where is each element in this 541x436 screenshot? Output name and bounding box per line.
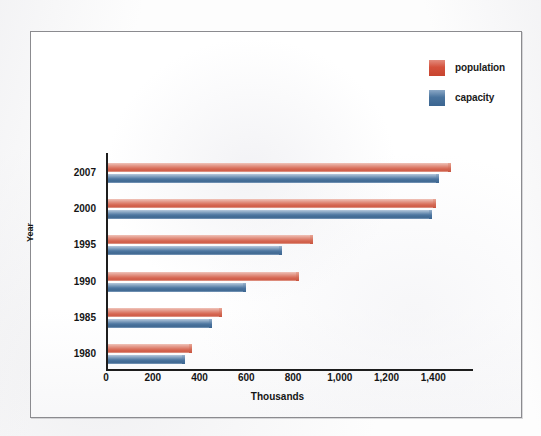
y-axis-tick-labels: 200720001995199019851980 (31, 153, 106, 370)
bar-capacity-1980[interactable] (108, 355, 182, 364)
bar-capacity-1995[interactable] (108, 246, 279, 255)
bar-population-2000[interactable] (108, 199, 433, 208)
bar-population-1985[interactable] (108, 308, 219, 317)
bar-population-2007[interactable] (108, 163, 448, 172)
bar-capacity-2000[interactable] (108, 210, 429, 219)
y-axis-line (106, 153, 108, 370)
x-axis-tick-200: 200 (144, 373, 161, 383)
legend-swatch-capacity-icon (429, 90, 445, 106)
bar-group-2000 (108, 199, 473, 219)
bar-group-1990 (108, 272, 473, 292)
bar-group-2007 (108, 163, 473, 183)
y-axis-tick-2007: 2007 (74, 168, 96, 178)
bar-population-1990[interactable] (108, 272, 296, 281)
y-axis-tick-1980: 1980 (74, 349, 96, 359)
x-axis-tick-0: 0 (103, 373, 109, 383)
y-axis-tick-2000: 2000 (74, 204, 96, 214)
x-axis-tick-600: 600 (238, 373, 255, 383)
bar-group-1985 (108, 308, 473, 328)
x-axis-tick-400: 400 (191, 373, 208, 383)
bar-population-1995[interactable] (108, 235, 310, 244)
y-axis-tick-1985: 1985 (74, 313, 96, 323)
y-axis-title: Year (25, 223, 35, 242)
legend-swatch-population-icon (429, 60, 445, 76)
legend-label-population: population (455, 62, 505, 73)
legend-item-population[interactable]: population (429, 56, 505, 79)
x-axis-title: Thousands (106, 391, 449, 402)
x-axis-tick-1000: 1,000 (327, 373, 352, 383)
legend-label-capacity: capacity (455, 92, 494, 103)
chart-legend: population capacity (429, 56, 505, 116)
x-axis-tick-1400: 1,400 (421, 373, 446, 383)
x-axis-tick-1200: 1,200 (374, 373, 399, 383)
plot-area (106, 153, 473, 370)
legend-item-capacity[interactable]: capacity (429, 86, 505, 109)
bar-population-1980[interactable] (108, 344, 189, 353)
bar-capacity-1985[interactable] (108, 319, 209, 328)
x-axis-tick-800: 800 (285, 373, 302, 383)
y-axis-tick-1995: 1995 (74, 240, 96, 250)
x-axis-tick-labels: 02004006008001,0001,2001,400 (106, 373, 486, 389)
bar-capacity-1990[interactable] (108, 283, 243, 292)
y-axis-tick-1990: 1990 (74, 277, 96, 287)
bar-capacity-2007[interactable] (108, 174, 436, 183)
bar-group-1995 (108, 235, 473, 255)
bar-group-1980 (108, 344, 473, 364)
chart-frame: population capacity 20072000199519901985… (30, 31, 522, 418)
x-axis-line (106, 369, 473, 371)
